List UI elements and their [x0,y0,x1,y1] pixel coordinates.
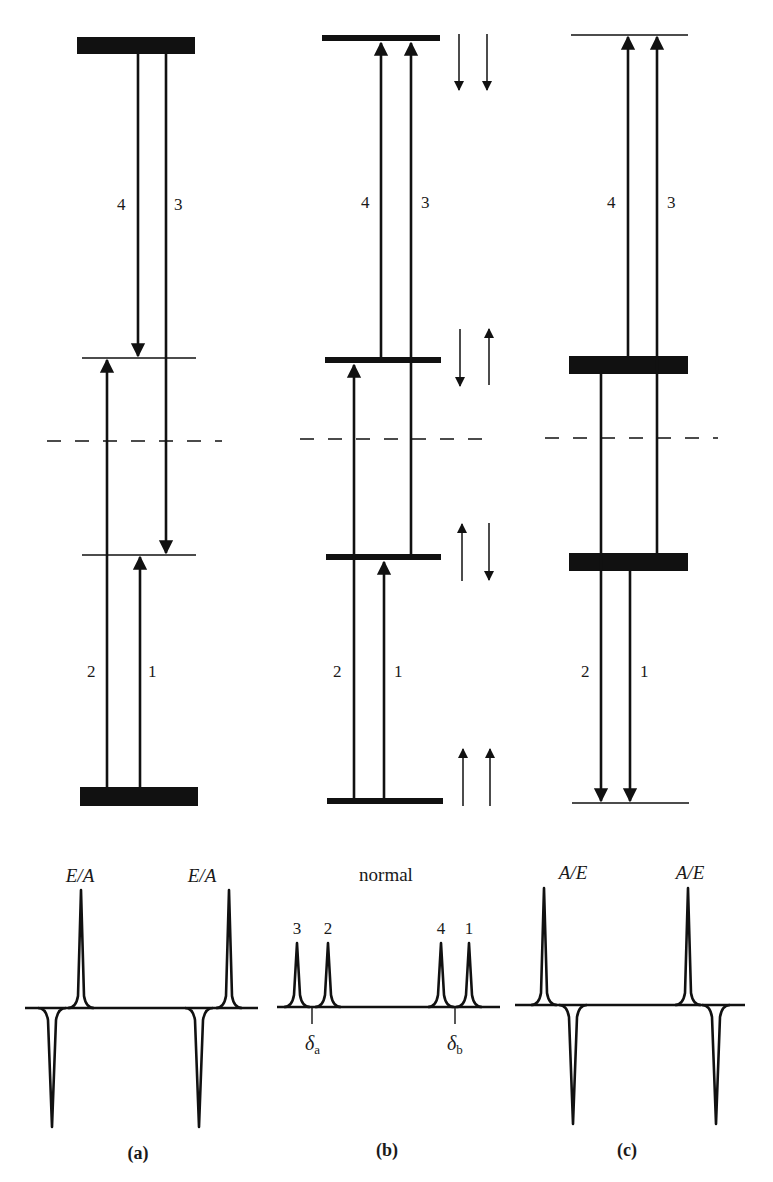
spectrum-b-peak-4 [428,943,454,1007]
transition-label-c-4: 4 [607,193,616,212]
spectrum-b-title: normal [359,864,413,885]
level-a-bottom-thick [80,787,198,806]
level-a-top-thick [77,37,195,54]
spectrum-a-emission-peak-1 [38,1008,66,1127]
transition-label-c-3: 3 [667,193,676,212]
spectrum-a: E/A E/A [25,865,258,1127]
spectrum-b-peak-2 [315,943,341,1007]
cidnp-energy-level-figure: 4 3 2 1 4 3 2 1 [0,0,773,1182]
level-b-top [322,35,440,41]
spectrum-c-emission-peak-2 [702,1005,730,1124]
level-b-bottom [327,798,443,804]
spectrum-c-label-left: A/E [557,862,588,883]
spin-state-lower-middle [462,523,489,581]
panel-a-energy-diagram: 4 3 2 1 [47,37,222,806]
spectrum-a-absorption-peak-1 [68,890,94,1008]
peak-label-2: 2 [324,919,333,938]
spectrum-a-label-right: E/A [187,865,217,886]
spin-state-top [459,34,487,90]
spectrum-c-absorption-peak-1 [531,888,557,1005]
level-c-upper-middle-thick [569,356,688,374]
spectrum-c-emission-peak-1 [559,1005,587,1124]
level-b-lower-middle [326,554,441,560]
transition-label-c-1: 1 [640,662,649,681]
spectrum-c-label-right: A/E [674,862,705,883]
spin-state-bottom [463,749,490,806]
panel-c-energy-diagram: 4 3 2 1 [545,35,718,803]
caption-b: (b) [376,1140,398,1161]
level-b-upper-middle [325,357,441,363]
transition-label-a-2: 2 [87,662,96,681]
panel-b-energy-diagram: 4 3 2 1 [300,34,496,806]
spectrum-b [277,943,500,1024]
transition-label-b-3: 3 [421,193,430,212]
peak-label-3: 3 [293,919,302,938]
transition-label-a-1: 1 [148,662,157,681]
spectrum-b-peak-3 [284,943,310,1007]
shift-label-delta-a: δa [305,1032,320,1057]
caption-a: (a) [128,1143,149,1164]
spin-state-upper-middle [460,329,489,386]
shift-label-delta-b: δb [447,1032,463,1057]
transition-label-a-3: 3 [174,195,183,214]
spectrum-c-absorption-peak-2 [675,888,701,1005]
transition-label-c-2: 2 [581,662,590,681]
peak-label-4: 4 [437,919,446,938]
spectrum-a-label-left: E/A [65,865,95,886]
spectrum-a-absorption-peak-2 [216,890,242,1008]
transition-label-a-4: 4 [117,195,126,214]
spectrum-b-peak-1 [456,943,482,1007]
level-c-lower-middle-thick [569,553,688,571]
peak-label-1: 1 [465,919,474,938]
caption-c: (c) [617,1140,637,1161]
spectrum-a-emission-peak-2 [185,1008,213,1127]
transition-label-b-2: 2 [333,662,342,681]
transition-label-b-1: 1 [394,662,403,681]
transition-label-b-4: 4 [361,193,370,212]
spectrum-c [515,888,745,1124]
